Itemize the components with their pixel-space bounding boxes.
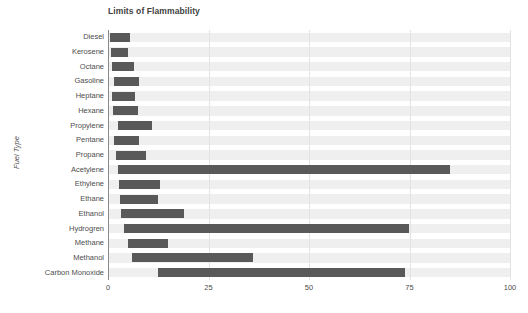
bar-propylene[interactable] xyxy=(118,121,153,130)
y-tick-label: Acetylene xyxy=(0,165,104,174)
x-tick-label: 50 xyxy=(305,283,313,292)
y-tick-label: Gasoline xyxy=(0,76,104,85)
chart-title: Limits of Flammability xyxy=(108,6,200,16)
bar-hydrogren[interactable] xyxy=(124,224,409,233)
y-tick-label: Propylene xyxy=(0,121,104,130)
gridline xyxy=(410,30,411,280)
y-tick-label: Ethane xyxy=(0,194,104,203)
y-tick-label: Methanol xyxy=(0,253,104,262)
bar-gasoline[interactable] xyxy=(114,77,139,86)
bar-propane[interactable] xyxy=(116,151,146,160)
y-tick-label: Propane xyxy=(0,150,104,159)
bar-octane[interactable] xyxy=(112,62,134,71)
y-axis-tick-labels: DieselKeroseneOctaneGasolineHeptaneHexan… xyxy=(0,30,104,280)
y-tick-label: Carbon Monoxide xyxy=(0,268,104,277)
y-tick-label: Ethanol xyxy=(0,209,104,218)
x-tick-label: 75 xyxy=(405,283,413,292)
y-tick-label: Ethylene xyxy=(0,179,104,188)
y-tick-label: Heptane xyxy=(0,91,104,100)
x-axis-tick-labels: 0255075100 xyxy=(108,283,510,297)
x-tick-label: 100 xyxy=(504,283,517,292)
gridline xyxy=(309,30,310,280)
flammability-bar-chart: Limits of Flammability Fuel Type DieselK… xyxy=(0,0,528,313)
y-tick-label: Methane xyxy=(0,238,104,247)
y-tick-label: Diesel xyxy=(0,32,104,41)
y-tick-label: Hexane xyxy=(0,106,104,115)
y-tick-label: Octane xyxy=(0,62,104,71)
bar-kerosene[interactable] xyxy=(111,48,128,57)
bar-methane[interactable] xyxy=(128,239,168,248)
x-tick-label: 25 xyxy=(204,283,212,292)
bar-diesel[interactable] xyxy=(110,33,130,42)
bar-hexane[interactable] xyxy=(113,106,138,115)
bar-heptane[interactable] xyxy=(112,92,135,101)
bar-ethylene[interactable] xyxy=(119,180,160,189)
bar-acetylene[interactable] xyxy=(118,165,450,174)
plot-area xyxy=(108,30,510,280)
y-tick-label: Hydrogren xyxy=(0,224,104,233)
y-tick-label: Pentane xyxy=(0,135,104,144)
y-axis-line xyxy=(108,30,109,280)
bar-pentane[interactable] xyxy=(114,136,139,145)
gridline xyxy=(209,30,210,280)
bar-ethanol[interactable] xyxy=(121,209,184,218)
y-tick-label: Kerosene xyxy=(0,47,104,56)
bar-methanol[interactable] xyxy=(132,253,253,262)
bar-carbon-monoxide[interactable] xyxy=(158,268,405,277)
x-tick-label: 0 xyxy=(106,283,110,292)
bar-ethane[interactable] xyxy=(120,195,158,204)
gridline xyxy=(510,30,511,280)
